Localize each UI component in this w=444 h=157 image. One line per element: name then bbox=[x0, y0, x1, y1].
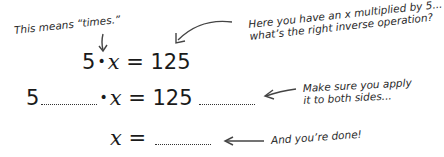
multiply-dot: • bbox=[97, 53, 105, 69]
equation-row-2: 5•x = 125 bbox=[26, 88, 255, 109]
curved-arrow-icon bbox=[176, 21, 232, 43]
arrow-left-icon bbox=[265, 89, 296, 99]
variable-x: x bbox=[110, 86, 122, 110]
equals-sign: = bbox=[129, 126, 147, 150]
arrow-down-icon bbox=[99, 34, 107, 51]
equals-sign: = bbox=[126, 50, 144, 74]
coefficient: 5 bbox=[82, 50, 95, 74]
right-hand-side: 125 bbox=[152, 86, 192, 110]
coefficient: 5 bbox=[26, 86, 39, 110]
blank-left-field[interactable] bbox=[41, 102, 97, 105]
blank-right-field[interactable] bbox=[199, 102, 255, 105]
multiply-dot: • bbox=[99, 89, 107, 105]
answer-blank-field[interactable] bbox=[155, 142, 211, 145]
right-hand-side: 125 bbox=[150, 50, 190, 74]
variable-x: x bbox=[108, 50, 120, 74]
equation-row-1: 5•x = 125 bbox=[82, 52, 191, 73]
variable-x: x bbox=[110, 126, 122, 150]
equation-row-3: x = bbox=[110, 128, 211, 149]
arrow-left-icon bbox=[225, 137, 264, 145]
equals-sign: = bbox=[128, 86, 146, 110]
